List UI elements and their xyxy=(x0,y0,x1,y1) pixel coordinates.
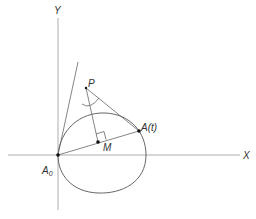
geometry-figure: Y X P A(t) M A0 xyxy=(0,0,256,219)
y-axis-label: Y xyxy=(54,5,62,16)
point-a0 xyxy=(56,153,60,157)
label-p: P xyxy=(88,78,95,89)
label-a0: A0 xyxy=(41,165,53,177)
loop-curve xyxy=(58,113,146,193)
tangent-line-a0 xyxy=(58,62,78,155)
point-p xyxy=(85,87,87,89)
label-a0-subscript: 0 xyxy=(49,170,53,177)
label-m: M xyxy=(103,142,112,153)
label-at: A(t) xyxy=(140,122,157,133)
point-m xyxy=(96,140,100,144)
x-axis-label: X xyxy=(242,150,250,161)
angle-arc xyxy=(82,98,99,106)
